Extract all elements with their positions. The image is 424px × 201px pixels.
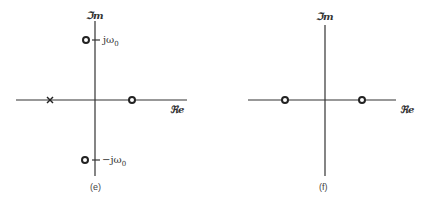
- zero-marker-right: [359, 97, 365, 103]
- panel-f-caption: (f): [319, 182, 328, 192]
- pole-zero-diagrams: [0, 0, 424, 201]
- upper-label-sub: 0: [114, 40, 118, 48]
- zero-marker-upper: [83, 37, 89, 43]
- lower-label-main: −jω: [102, 154, 122, 165]
- lower-label-sub: 0: [122, 160, 126, 168]
- panel-f-real-axis-label: ℜe: [400, 105, 414, 115]
- panel-e-imag-axis-label: ℑm: [86, 11, 104, 21]
- panel-e-upper-zero-label: jω0: [103, 35, 119, 49]
- upper-label-main: jω: [103, 34, 114, 45]
- zero-marker-real: [129, 97, 135, 103]
- panel-e-axes: [16, 21, 187, 176]
- panel-e-caption: (e): [90, 182, 101, 192]
- panel-f-axes: [248, 25, 396, 176]
- zero-marker-lower: [82, 157, 88, 163]
- panel-f-imag-axis-label: ℑm: [316, 12, 334, 22]
- zero-marker-left: [282, 97, 288, 103]
- panel-e-real-axis-label: ℜe: [170, 105, 184, 115]
- panel-e-lower-zero-label: −jω0: [102, 155, 126, 169]
